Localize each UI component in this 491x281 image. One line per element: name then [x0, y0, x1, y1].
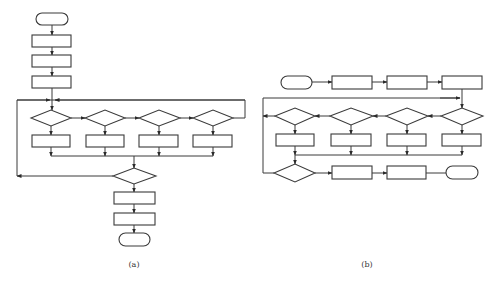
process-row-b3 [387, 134, 426, 146]
process-box-b3 [442, 76, 482, 89]
start-terminal-a [36, 13, 68, 25]
decision-a3 [139, 110, 180, 126]
end-terminal-a [119, 233, 150, 246]
loop-decision-a [113, 168, 156, 184]
process-row-b1 [276, 134, 314, 146]
process-box-a5 [114, 213, 155, 225]
decision-b3 [386, 108, 428, 125]
process-box-a1 [32, 35, 71, 47]
flowchart-figure: (a) [0, 0, 491, 281]
process-box-b5 [387, 166, 426, 179]
process-row-a1 [32, 135, 70, 147]
process-box-a2 [32, 55, 71, 67]
process-box-a4 [114, 192, 155, 204]
start-terminal-b [281, 76, 312, 89]
process-row-b4 [442, 134, 481, 146]
decision-a2 [85, 110, 125, 126]
process-row-a4 [193, 135, 232, 147]
end-terminal-b [446, 166, 478, 179]
panel-a: (a) [17, 13, 245, 269]
caption-b: (b) [361, 260, 372, 269]
caption-a: (a) [128, 260, 139, 269]
process-box-b2 [387, 76, 427, 89]
decision-b4 [441, 108, 483, 125]
process-box-a3 [32, 76, 71, 88]
process-box-b1 [332, 76, 372, 89]
decision-a1 [31, 110, 71, 126]
panel-b: (b) [263, 76, 483, 269]
loop-decision-b [274, 164, 315, 182]
decision-a4 [193, 110, 233, 126]
process-row-a3 [139, 135, 178, 147]
decision-b2 [330, 108, 373, 125]
process-box-b4 [332, 166, 372, 179]
process-row-b2 [331, 134, 371, 146]
decision-b1 [275, 108, 315, 125]
process-row-a2 [86, 135, 124, 147]
